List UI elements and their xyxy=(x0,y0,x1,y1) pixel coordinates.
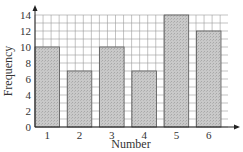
y-tick-label: 12 xyxy=(20,25,31,37)
bar-4 xyxy=(132,71,157,127)
y-tick-label: 10 xyxy=(20,41,32,53)
bar-6 xyxy=(197,31,222,127)
bar-chart: 02468101214 123456 Number Frequency xyxy=(0,0,243,152)
y-axis-arrow-icon xyxy=(33,5,38,11)
x-axis-label: Number xyxy=(111,137,150,151)
bar-5 xyxy=(164,15,189,127)
bar-3 xyxy=(100,47,125,127)
bar-1 xyxy=(35,47,60,127)
y-tick-label: 4 xyxy=(26,89,32,101)
bar-2 xyxy=(67,71,92,127)
x-tick-label: 6 xyxy=(206,129,212,141)
y-tick-label: 8 xyxy=(26,57,32,69)
y-tick-label: 0 xyxy=(26,121,32,133)
x-tick-label: 5 xyxy=(174,129,180,141)
x-tick-label: 1 xyxy=(45,129,51,141)
x-tick-label: 2 xyxy=(77,129,83,141)
y-tick-labels: 02468101214 xyxy=(20,9,32,133)
y-tick-label: 2 xyxy=(26,105,32,117)
x-axis-arrow-icon xyxy=(234,125,240,130)
y-axis-label: Frequency xyxy=(1,46,15,97)
y-tick-label: 6 xyxy=(26,73,32,85)
y-tick-label: 14 xyxy=(20,9,32,21)
